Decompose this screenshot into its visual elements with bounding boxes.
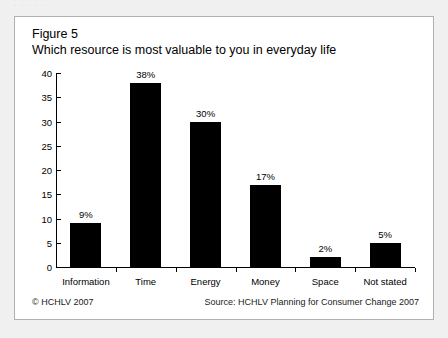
bar-value-label: 17% xyxy=(256,171,275,182)
bar xyxy=(370,243,401,267)
x-axis-category-label: Money xyxy=(251,276,280,287)
x-axis-tick xyxy=(295,268,296,272)
plot-area: 0510152025303540 9%38%30%17%2%5% Informa… xyxy=(56,73,415,267)
y-axis-tick-label: 0 xyxy=(47,262,52,273)
x-axis-category-label: Time xyxy=(135,276,156,287)
figure-frame: Figure 5 Which resource is most valuable… xyxy=(14,16,434,320)
figure-footer: © HCHLV 2007 Source: HCHLV Planning for … xyxy=(32,297,419,307)
x-axis-category-label: Space xyxy=(312,276,339,287)
bar xyxy=(130,83,161,267)
page-title: Which resource is most valuable to you i… xyxy=(32,42,412,58)
x-axis-tick xyxy=(355,268,356,272)
bar-value-label: 5% xyxy=(378,229,392,240)
figure-number: Figure 5 xyxy=(32,26,412,42)
x-axis-category-label: Information xyxy=(62,276,110,287)
y-axis-tick-label: 35 xyxy=(41,92,52,103)
x-axis-tick xyxy=(415,268,416,272)
y-axis-tick-label: 20 xyxy=(41,165,52,176)
y-axis-tick-label: 40 xyxy=(41,68,52,79)
x-axis-category-label: Not stated xyxy=(363,276,406,287)
y-axis-tick-label: 30 xyxy=(41,116,52,127)
page-top-bleed-text: · · · · · xyxy=(14,1,134,10)
x-axis-tick xyxy=(236,268,237,272)
x-axis-category-label: Energy xyxy=(191,276,221,287)
bar xyxy=(70,223,101,267)
y-axis-tick-label: 15 xyxy=(41,189,52,200)
bar xyxy=(250,185,281,267)
bar xyxy=(310,257,341,267)
y-axis-tick-label: 10 xyxy=(41,213,52,224)
figure-title-block: Figure 5 Which resource is most valuable… xyxy=(32,26,412,58)
y-axis-tick-label: 25 xyxy=(41,140,52,151)
bar-value-label: 30% xyxy=(196,108,215,119)
x-axis-tick xyxy=(176,268,177,272)
bar-chart: 0510152025303540 9%38%30%17%2%5% Informa… xyxy=(15,69,433,281)
copyright-text: © HCHLV 2007 xyxy=(32,297,94,307)
x-axis-tick xyxy=(116,268,117,272)
bar-value-label: 38% xyxy=(136,69,155,80)
y-axis-tick xyxy=(57,267,61,268)
source-text: Source: HCHLV Planning for Consumer Chan… xyxy=(205,297,419,307)
bar-value-label: 9% xyxy=(79,209,93,220)
bar xyxy=(190,122,221,268)
y-axis-tick-label: 5 xyxy=(47,237,52,248)
bar-value-label: 2% xyxy=(318,243,332,254)
bars-layer xyxy=(56,73,415,267)
